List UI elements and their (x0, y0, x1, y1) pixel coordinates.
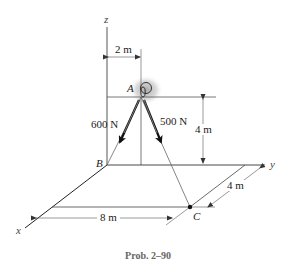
x-axis (25, 165, 107, 228)
y-axis-label: y (270, 159, 275, 170)
dim-2m-label: 2 m (115, 44, 132, 55)
statics-diagram: z y x A B C 600 N 500 N 2 m 4 m 4 m 8 m … (0, 0, 296, 273)
point-a-label: A (127, 83, 134, 94)
dim-8m-label: 8 m (97, 212, 120, 223)
force-500n-arrow-stripe (144, 100, 157, 133)
figure-caption: Prob. 2–90 (0, 250, 296, 261)
dim-4m-height-label: 4 m (194, 124, 213, 135)
force-600n-label: 600 N (91, 119, 118, 130)
point-a-highlight (129, 75, 163, 105)
point-c-dot (188, 205, 192, 209)
force-500n-label: 500 N (160, 116, 187, 127)
dim-4m-depth-label: 4 m (226, 180, 245, 191)
z-axis-label: z (104, 14, 108, 25)
force-600n-arrow-stripe (124, 100, 139, 133)
x-axis-label: x (16, 225, 21, 236)
point-c-label: C (193, 211, 200, 222)
diagram-drawing (0, 0, 296, 273)
dim-8m-ext (166, 207, 190, 225)
point-b-label: B (96, 158, 103, 169)
